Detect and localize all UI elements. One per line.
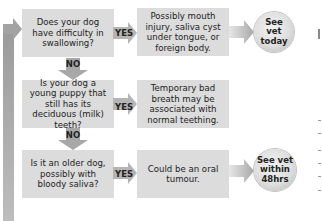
feedback-flow-bar (3, 24, 14, 221)
yes-label: YES (114, 163, 138, 185)
no-label: NO (58, 129, 88, 151)
arrow-right-icon (0, 16, 24, 44)
edge-mark (318, 150, 321, 151)
edge-mark (318, 29, 320, 39)
no-label: NO (58, 58, 88, 80)
arrow-right-icon (229, 20, 254, 44)
yes-label: YES (114, 96, 138, 118)
question-box-puppy: Is your dog a young puppy that still has… (22, 80, 114, 128)
edge-mark (318, 133, 321, 134)
question-box-older-dog: Is it an older dog, possibly with bloody… (22, 150, 114, 198)
result-box-tumour: Could be an oral tumour. (137, 150, 229, 198)
edge-mark (318, 120, 321, 121)
question-box-swallowing: Does your dog have difficulty in swallow… (22, 9, 114, 57)
action-circle-see-vet-today: See vet today (254, 12, 294, 52)
arrow-right-icon (229, 159, 254, 183)
edge-mark (318, 176, 321, 177)
result-box-mouth-injury: Possibly mouth injury, saliva cyst under… (137, 8, 229, 56)
action-circle-see-vet-48hrs: See vet within 48hrs (254, 149, 296, 191)
yes-label: YES (114, 22, 138, 44)
edge-mark (318, 190, 321, 191)
result-box-teething: Temporary bad breath may be associated w… (137, 80, 229, 128)
edge-mark (318, 163, 321, 164)
